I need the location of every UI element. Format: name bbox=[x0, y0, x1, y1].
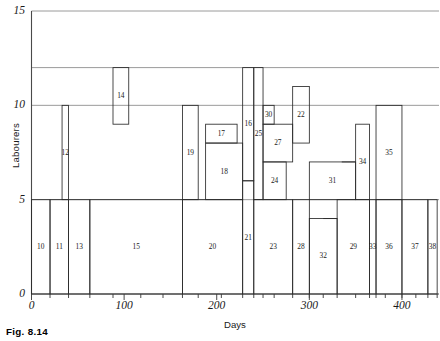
activity-block-11[interactable]: 11 bbox=[50, 200, 69, 294]
activity-block-23[interactable]: 23 bbox=[254, 200, 293, 294]
x-axis-title: Days bbox=[200, 319, 270, 330]
activity-block-label-28: 28 bbox=[297, 242, 305, 251]
activity-block-25[interactable]: 25 bbox=[254, 68, 263, 200]
y-tick-label-10: 10 bbox=[0, 99, 25, 111]
activity-block-label-21: 21 bbox=[245, 233, 253, 242]
activity-block-14[interactable]: 14 bbox=[113, 68, 129, 125]
activity-block-label-36: 36 bbox=[385, 242, 393, 251]
activity-block-16[interactable]: 16 bbox=[243, 68, 254, 181]
activity-block-34[interactable]: 34 bbox=[356, 124, 370, 199]
x-tick-label-0: 0 bbox=[2, 300, 62, 312]
activity-block-13[interactable]: 13 bbox=[69, 200, 90, 294]
labour-histogram-chart: 1011121314151617181920212223242527282930… bbox=[0, 0, 440, 341]
activity-block-label-23: 23 bbox=[270, 242, 278, 251]
activity-block-22[interactable]: 22 bbox=[293, 86, 310, 143]
x-tick-label-300: 300 bbox=[279, 300, 339, 312]
activity-block-label-15: 15 bbox=[132, 242, 140, 251]
activity-block-label-24: 24 bbox=[271, 176, 279, 185]
x-tick-label-100: 100 bbox=[94, 300, 154, 312]
activity-block-17[interactable]: 17 bbox=[206, 124, 237, 143]
y-tick-label-0: 0 bbox=[0, 288, 25, 300]
activity-block-label-32: 32 bbox=[320, 251, 328, 260]
activity-block-35[interactable]: 35 bbox=[376, 105, 402, 199]
y-tick-label-15: 15 bbox=[0, 5, 25, 17]
activity-block-label-34: 34 bbox=[359, 157, 367, 166]
activity-block-label-17: 17 bbox=[218, 129, 226, 138]
activity-block-28[interactable]: 28 bbox=[293, 200, 310, 294]
activity-block-24[interactable]: 24 bbox=[263, 162, 286, 200]
activity-block-label-38: 38 bbox=[429, 242, 437, 251]
x-tick-label-200: 200 bbox=[187, 300, 247, 312]
activity-block-15[interactable]: 15 bbox=[90, 200, 183, 294]
activity-block-label-11: 11 bbox=[56, 242, 63, 251]
activity-block-36[interactable]: 36 bbox=[376, 200, 402, 294]
y-axis-title: Labourers bbox=[10, 111, 21, 181]
activity-block-label-18: 18 bbox=[220, 167, 228, 176]
figure-container: 1011121314151617181920212223242527282930… bbox=[0, 0, 440, 341]
activity-block-label-13: 13 bbox=[76, 242, 84, 251]
activity-block-20[interactable]: 20 bbox=[182, 200, 242, 294]
activity-block-37[interactable]: 37 bbox=[402, 200, 428, 294]
activity-block-19[interactable]: 19 bbox=[182, 105, 198, 199]
activity-block-29[interactable]: 29 bbox=[337, 200, 369, 294]
activity-block-10[interactable]: 10 bbox=[32, 200, 51, 294]
activity-block-label-35: 35 bbox=[385, 148, 393, 157]
activity-block-label-10: 10 bbox=[37, 242, 45, 251]
activity-block-label-30: 30 bbox=[265, 110, 273, 119]
activity-block-label-31: 31 bbox=[329, 176, 337, 185]
activity-block-label-12: 12 bbox=[62, 148, 70, 157]
activity-block-label-19: 19 bbox=[187, 148, 195, 157]
activity-block-31[interactable]: 31 bbox=[309, 162, 355, 200]
activity-block-label-37: 37 bbox=[411, 242, 419, 251]
activity-block-label-29: 29 bbox=[350, 242, 358, 251]
activity-block-32[interactable]: 32 bbox=[309, 219, 337, 294]
activity-block-12[interactable]: 12 bbox=[62, 105, 70, 199]
activity-block-label-27: 27 bbox=[274, 138, 282, 147]
activity-block-30[interactable]: 30 bbox=[263, 105, 274, 124]
activity-block-21[interactable]: 21 bbox=[243, 181, 254, 294]
activity-block-label-14: 14 bbox=[117, 91, 125, 100]
figure-caption: Fig. 8.14 bbox=[6, 326, 48, 337]
activity-block-27[interactable]: 27 bbox=[263, 124, 293, 162]
activity-block-label-20: 20 bbox=[209, 242, 217, 251]
activity-block-label-22: 22 bbox=[297, 110, 305, 119]
activity-block-38[interactable]: 38 bbox=[428, 200, 437, 294]
activity-block-18[interactable]: 18 bbox=[206, 143, 243, 200]
x-tick-label-400: 400 bbox=[372, 300, 432, 312]
y-tick-label-5: 5 bbox=[0, 194, 25, 206]
activity-block-label-16: 16 bbox=[245, 119, 253, 128]
activity-block-label-25: 25 bbox=[255, 129, 263, 138]
